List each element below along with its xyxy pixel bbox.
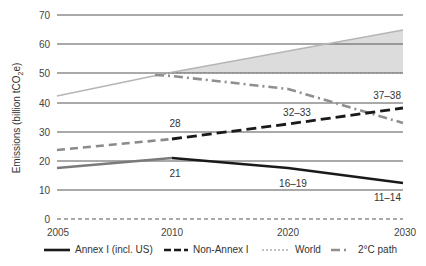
- svg-text:2005: 2005: [47, 227, 70, 238]
- non-annex-historical-line: [57, 139, 172, 150]
- legend-item-non-annex: Non-Annex I: [164, 244, 249, 255]
- legend-label-non-annex: Non-Annex I: [193, 244, 249, 255]
- emissions-chart: Emissions (billion tCO2e) 70 60 50 40 30…: [0, 0, 426, 244]
- dashed-line-swatch-icon: [164, 247, 188, 253]
- y-axis-label: Emissions (billion tCO2e): [11, 63, 24, 174]
- svg-text:70: 70: [39, 10, 51, 21]
- svg-text:10: 10: [39, 185, 51, 196]
- svg-text:2010: 2010: [161, 227, 184, 238]
- svg-text:50: 50: [39, 68, 51, 79]
- svg-text:28: 28: [169, 118, 181, 129]
- legend-label-2c-path: 2°C path: [358, 244, 397, 255]
- svg-text:0: 0: [44, 214, 50, 225]
- x-tick-labels: 2005 2010 2020 2030: [47, 227, 417, 238]
- annex-historical-line: [57, 158, 172, 168]
- svg-text:32–33: 32–33: [283, 107, 311, 118]
- svg-text:2020: 2020: [277, 227, 300, 238]
- dotted-line-swatch-icon: [262, 247, 290, 253]
- legend-item-world: World: [262, 244, 321, 255]
- dash-dot-line-swatch-icon: [331, 247, 353, 253]
- svg-text:37–38: 37–38: [373, 90, 401, 101]
- legend-item-2c-path: 2°C path: [331, 244, 397, 255]
- two-degree-path-line: [155, 75, 403, 123]
- svg-text:2030: 2030: [394, 227, 417, 238]
- legend-label-world: World: [295, 244, 321, 255]
- svg-text:21: 21: [169, 168, 181, 179]
- svg-text:20: 20: [39, 156, 51, 167]
- legend-label-annex: Annex I (incl. US): [75, 244, 153, 255]
- y-tick-labels: 70 60 50 40 30 20 10 0: [39, 10, 51, 225]
- chart-legend: Annex I (incl. US) Non-Annex I World 2°C…: [0, 244, 426, 262]
- svg-text:30: 30: [39, 127, 51, 138]
- svg-text:16–19: 16–19: [279, 178, 307, 189]
- annotations: 28 21 32–33 16–19 37–38 11–14: [169, 90, 401, 203]
- solid-line-swatch-icon: [44, 247, 70, 253]
- legend-item-annex: Annex I (incl. US): [44, 244, 153, 255]
- svg-text:60: 60: [39, 39, 51, 50]
- svg-text:11–14: 11–14: [374, 192, 402, 203]
- svg-text:40: 40: [39, 98, 51, 109]
